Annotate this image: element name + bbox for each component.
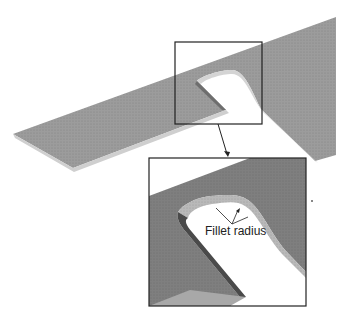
fillet-radius-label: Fillet radius [205,224,266,238]
figure-canvas [0,0,348,321]
stray-mark [311,200,313,202]
leader-arrow [218,124,230,157]
